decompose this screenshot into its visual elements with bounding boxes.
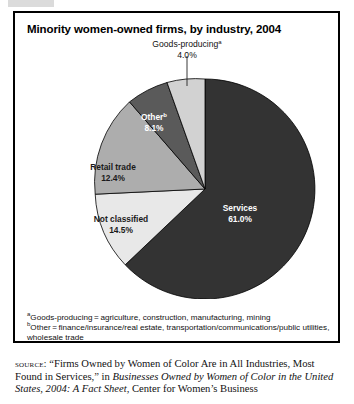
slice-label-other-text: Other [141, 112, 164, 122]
slice-label-goods-producing-superscript: a [218, 39, 222, 45]
footnote-a: aGoods-producing = agriculture, construc… [27, 313, 332, 323]
slice-value-not-classified: 14.5% [109, 225, 133, 235]
pie-chart-svg: Goods-producinga 4.0% Otherb 8.1% Retail… [15, 39, 338, 299]
source-label: source: [15, 359, 47, 369]
slice-label-retail-trade: Retail trade [90, 162, 136, 172]
source-publisher: , Center for Women’s Business [127, 383, 258, 394]
slice-value-retail-trade: 12.4% [101, 173, 125, 183]
footnote-b: bOther = finance/insurance/real estate, … [27, 323, 332, 343]
source-note: source: “Firms Owned by Women of Color A… [15, 358, 337, 396]
slice-value-services: 61.0% [228, 214, 252, 224]
page-title: Minority women-owned firms, by industry,… [27, 23, 281, 35]
slice-label-other-superscript: b [163, 112, 167, 118]
scan-artifact [8, 0, 54, 7]
footnotes: aGoods-producing = agriculture, construc… [27, 313, 332, 344]
source-in-word: in [102, 371, 110, 382]
footnote-b-text: Other = finance/insurance/real estate, t… [27, 323, 329, 342]
figure-frame: Minority women-owned firms, by industry,… [13, 11, 340, 343]
slice-label-services: Services [223, 203, 258, 213]
slice-label-goods-producing: Goods-producinga [152, 39, 222, 49]
slice-value-goods-producing: 4.0% [177, 50, 197, 60]
pie-chart: Goods-producinga 4.0% Otherb 8.1% Retail… [15, 39, 338, 299]
slice-label-goods-producing-text: Goods-producing [152, 39, 218, 49]
slice-value-other: 8.1% [144, 123, 164, 133]
footnote-a-text: Goods-producing = agriculture, construct… [30, 313, 270, 322]
slice-label-not-classified: Not classified [94, 214, 148, 224]
